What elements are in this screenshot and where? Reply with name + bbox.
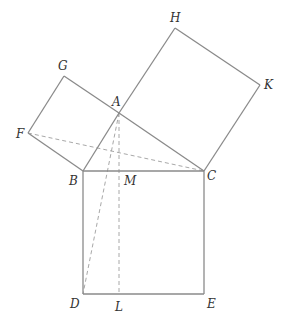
segment-KC	[204, 85, 260, 171]
pythagorean-proof-diagram: A B C D E F G H K L M	[0, 0, 283, 323]
label-G: G	[58, 59, 68, 73]
label-L: L	[114, 300, 123, 314]
label-M: M	[123, 174, 137, 188]
dashed-construction-lines	[28, 113, 204, 294]
label-K: K	[263, 78, 274, 92]
segment-GA	[64, 76, 119, 113]
label-F: F	[15, 127, 25, 141]
label-B: B	[68, 174, 78, 188]
vertex-labels: A B C D E F G H K L M	[15, 11, 274, 314]
label-E: E	[206, 297, 216, 311]
dashed-segment-AD	[83, 113, 119, 294]
segment-FG	[28, 76, 64, 133]
segment-AH	[119, 28, 175, 113]
label-H: H	[169, 11, 181, 25]
label-C: C	[207, 169, 216, 183]
segment-HK	[175, 28, 260, 85]
label-A: A	[111, 95, 121, 109]
label-D: D	[69, 297, 80, 311]
